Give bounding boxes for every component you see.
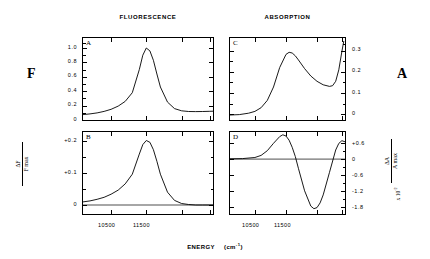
x-axis-units-open: (cm [224,244,236,250]
panel-B-ytick-label-1: +0.1 [48,169,77,175]
panel-D-ytick-label-2: -0.6 [352,172,363,178]
y-axis-symbol-A: A [397,66,407,82]
panel-D-xtick-label-1: 11500 [274,222,291,228]
x-axis-units-close: ) [240,244,242,250]
panel-D-axis-numerator: ΔA [384,139,390,183]
panel-B: B [82,131,214,215]
panel-C-letter: C [233,39,238,47]
panel-A-ytick-label-4: 0.2 [52,101,77,107]
panel-C-ytick-label-3: 0 [352,110,356,116]
panel-B-axis-numerator: ΔF [15,142,21,186]
panel-C: C [229,37,346,121]
panel-A-ytick-label-3: 0.4 [52,87,77,93]
panel-D-letter: D [233,133,238,141]
panel-B-xtick-label-0: 10500 [98,222,115,228]
panel-D-ytick-label-1: 0 [352,156,356,162]
panel-D-ytick-label-4: -1.8 [352,204,363,210]
panel-B-xtick-label-1: 11500 [133,222,150,228]
panel-D-plot [230,132,345,214]
x-axis-title-text: ENERGY [187,244,215,250]
panel-D: D [229,131,346,215]
panel-D-ytick-label-3: -1.2 [352,188,363,194]
panel-D-axis-scale-text: x 10 [395,191,401,201]
panel-B-ytick-label-2: 0 [48,201,77,207]
panel-C-ytick-label-1: 0.2 [352,67,361,73]
panel-A-ytick-label-2: 0.6 [52,72,77,78]
panel-C-plot [230,38,345,120]
panel-title-fluorescence: FLUORESCENCE [82,14,214,20]
panel-D-ytick-label-0: +0.6 [352,140,365,146]
panel-A: A [82,37,214,121]
y-axis-symbol-F: F [27,66,36,82]
panel-B-axis-label: ΔF F max [15,142,33,186]
panel-A-letter: A [86,39,91,47]
x-axis-title: ENERGY (cm-1) [0,242,430,250]
panel-A-ytick-label-5: 0 [52,116,77,122]
panel-A-plot [83,38,213,120]
panel-B-ytick-label-0: +0.2 [48,137,77,143]
panel-C-ytick-label-2: 0.1 [352,89,361,95]
panel-D-axis-scale: x 10-2 [393,174,405,214]
panel-D-xtick-label-0: 10500 [242,222,259,228]
panel-B-plot [83,132,213,214]
panel-title-absorption: ABSORPTION [229,14,346,20]
panel-A-ytick-label-1: 0.8 [52,58,77,64]
panel-A-ytick-label-0: 1.0 [52,44,77,50]
figure-root: FLUORESCENCE ABSORPTION F A A 1.0 0 [0,0,430,259]
panel-D-axis-scale-exponent: -2 [393,188,398,191]
panel-C-ytick-label-0: 0.3 [352,46,361,52]
panel-B-axis-denominator: F max [23,142,29,186]
